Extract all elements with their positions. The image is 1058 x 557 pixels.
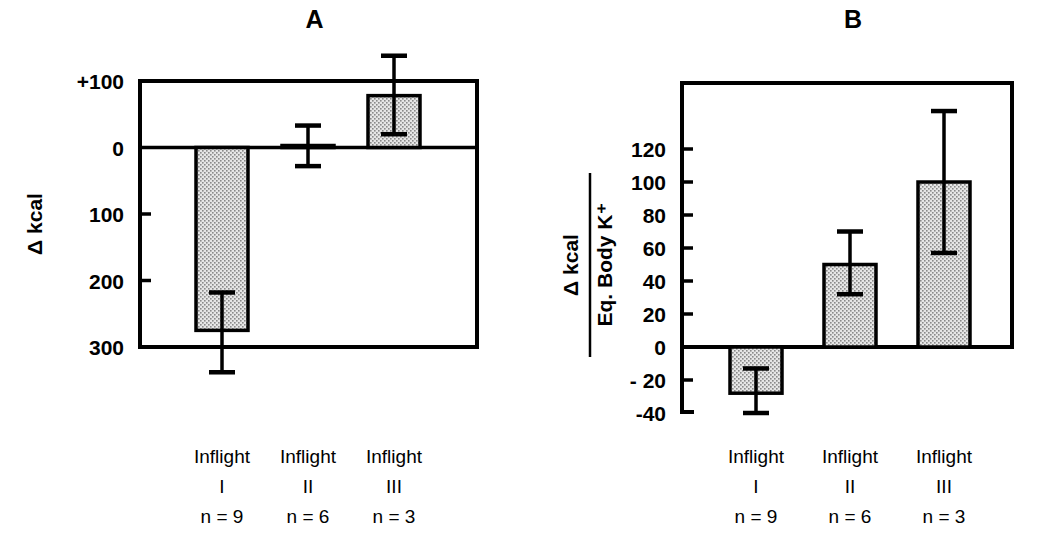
panel-a-category-label: II — [303, 476, 314, 497]
panel-b-title: B — [844, 5, 862, 33]
panel-b-ytick-label: 60 — [643, 237, 666, 260]
panel-a-axis-title: Δ kcal — [23, 193, 46, 255]
panel-b-ytick-label: 0 — [654, 336, 666, 359]
panel-b-ytick-label: - 20 — [630, 369, 666, 392]
panel-b-category-label: II — [845, 476, 856, 497]
panel-a-title: A — [305, 5, 323, 33]
panel-a-ytick-label: 0 — [112, 137, 124, 160]
panel-b-axis-title-denominator: Eq. Body K⁺ — [593, 203, 616, 326]
panel-b-category-label: Inflight — [916, 446, 973, 467]
panel-a-ytick-label: 200 — [89, 270, 124, 293]
panel-a-category-label: Inflight — [280, 446, 337, 467]
panel-a-ytick-label: +100 — [77, 70, 124, 93]
panel-a-category-label: n = 6 — [287, 506, 330, 527]
panel-a-category-label: Inflight — [194, 446, 251, 467]
panel-b-category-label: Inflight — [728, 446, 785, 467]
panel-a-category-label: I — [219, 476, 224, 497]
figure-container: A+1000100200300Δ kcalInflightIn = 9Infli… — [0, 0, 1058, 557]
panel-a-ytick-label: 300 — [89, 336, 124, 359]
panel-b-category-label: n = 6 — [829, 506, 872, 527]
panel-b-category-label: n = 3 — [923, 506, 966, 527]
panel-a-category-label: n = 3 — [373, 506, 416, 527]
panel-b-ytick-label: -40 — [636, 402, 666, 425]
panel-b-ytick-label: 40 — [643, 270, 666, 293]
panel-a-category-label: III — [386, 476, 402, 497]
panel-a-category-label: Inflight — [366, 446, 423, 467]
panel-b-ytick-label: 120 — [631, 138, 666, 161]
panel-b-category-label: I — [753, 476, 758, 497]
panel-b-category-label: n = 9 — [735, 506, 778, 527]
panel-b-ytick-label: 100 — [631, 171, 666, 194]
panel-b-axis-title-numerator: Δ kcal — [559, 234, 582, 296]
panel-b-ytick-label: 80 — [643, 204, 666, 227]
panel-b-category-label: III — [936, 476, 952, 497]
panel-a-ytick-label: 100 — [89, 203, 124, 226]
panel-b-category-label: Inflight — [822, 446, 879, 467]
figure-svg: A+1000100200300Δ kcalInflightIn = 9Infli… — [0, 0, 1058, 557]
panel-b-ytick-label: 20 — [643, 303, 666, 326]
panel-a-category-label: n = 9 — [201, 506, 244, 527]
